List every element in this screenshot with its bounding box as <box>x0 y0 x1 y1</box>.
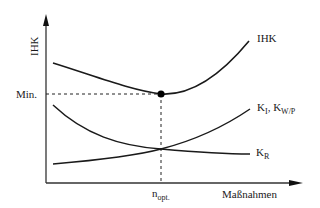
ki-curve <box>53 109 250 164</box>
y-axis-arrow-icon <box>43 14 49 26</box>
ki-curve-label: KI, KW/P <box>257 101 296 116</box>
ihk-curve-label: IHK <box>257 32 277 44</box>
kr-curve-label: KR <box>256 146 270 161</box>
kr-curve <box>53 105 250 154</box>
x-axis-arrow-icon <box>289 180 303 186</box>
y-axis-label: IHK <box>28 36 40 56</box>
min-label: Min. <box>16 88 37 100</box>
nopt-label: nopt. <box>152 187 170 202</box>
ihk-curve <box>53 41 249 94</box>
minimum-point <box>157 90 164 97</box>
x-axis-label: Maßnahmen <box>222 188 277 200</box>
cost-optimization-diagram: IHK Min. IHK KI, KW/P KR nopt. Maßnahmen <box>0 0 320 208</box>
